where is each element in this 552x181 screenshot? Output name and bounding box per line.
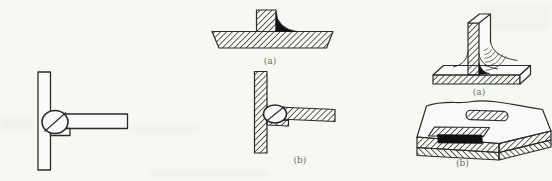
figure-section-b — [255, 72, 336, 154]
slot-weld-fill — [438, 135, 483, 144]
slot-opening — [466, 110, 508, 121]
figure-tee-joint-outline — [38, 72, 128, 170]
base-plate-section — [212, 32, 333, 49]
caption-section-b: (b) — [294, 155, 307, 165]
figure-perspective-a — [433, 14, 531, 84]
upright-plate-front-face — [468, 23, 479, 75]
left-fillet-curve — [453, 52, 468, 68]
caption-perspective-b: (b) — [456, 158, 469, 168]
figure-canvas: (a) (b) — [0, 0, 552, 181]
weld-diagram-svg: (a) (b) — [0, 0, 552, 181]
weld-flange-curve — [491, 42, 518, 61]
figure-perspective-b — [417, 101, 551, 160]
stub-plate-section — [257, 10, 277, 32]
figure-section-a — [212, 10, 333, 48]
caption-perspective-a: (a) — [473, 87, 485, 97]
fillet-weld-fill — [276, 12, 297, 32]
caption-section-a: (a) — [264, 56, 276, 66]
base-plate-front-face — [433, 75, 520, 84]
